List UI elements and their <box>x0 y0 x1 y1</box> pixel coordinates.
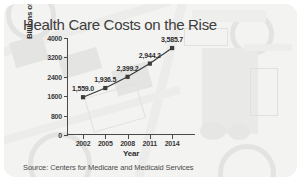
x-tick-2005 <box>105 135 106 139</box>
x-tick-label-2005: 2005 <box>98 140 113 147</box>
x-tick-2008 <box>128 135 129 139</box>
x-axis-title: Year <box>67 149 195 158</box>
data-point-marker-2014 <box>170 46 174 50</box>
x-tick-label-2011: 2011 <box>143 140 157 147</box>
y-tick-label-0: 0 <box>58 132 62 139</box>
data-point-marker-2008 <box>125 75 129 79</box>
x-tick-label-2002: 2002 <box>76 140 91 147</box>
y-axis-title: Billions of Dollars <box>25 4 34 50</box>
y-tick-label-1600: 1600 <box>47 93 62 100</box>
x-tick-label-2008: 2008 <box>120 140 135 147</box>
data-point-marker-2005 <box>103 86 107 90</box>
chart-title: Health Care Costs on the Rise <box>23 16 217 33</box>
data-point-label-2002: 1,559.0 <box>72 85 94 92</box>
data-point-label-2008: 2,399.2 <box>117 65 139 72</box>
data-point-label-2011: 2,944.2 <box>139 52 161 59</box>
chart-card: Health Care Costs on the Rise Billions o… <box>4 4 297 177</box>
source-note: Source: Centers for Medicare and Medicai… <box>23 163 194 172</box>
y-tick-0 <box>64 135 68 136</box>
x-tick-label-2014: 2014 <box>165 140 180 147</box>
x-tick-2011 <box>150 135 151 139</box>
y-tick-label-2400: 2400 <box>47 73 62 80</box>
screenshot-root: Health Care Costs on the Rise Billions o… <box>0 0 301 181</box>
data-point-label-2014: 3,585.7 <box>161 36 183 43</box>
y-tick-label-4000: 4000 <box>47 35 62 42</box>
y-tick-label-3200: 3200 <box>47 54 62 61</box>
data-point-label-2005: 1,936.5 <box>94 76 116 83</box>
x-tick-2014 <box>172 135 173 139</box>
data-point-marker-2002 <box>81 95 85 99</box>
y-tick-label-800: 800 <box>51 112 62 119</box>
data-point-marker-2011 <box>148 62 152 66</box>
x-tick-2002 <box>83 135 84 139</box>
plot-area: 08001600240032004000 2002200520082011201… <box>67 38 195 135</box>
